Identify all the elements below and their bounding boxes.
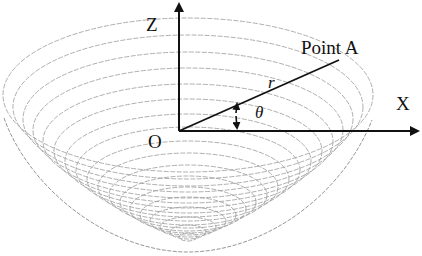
point-a-label: Point A	[301, 38, 359, 57]
z-axis-label: Z	[146, 15, 158, 34]
x-axis-label: X	[396, 94, 410, 113]
angle-arrow	[236, 104, 237, 128]
angle-label: θ	[255, 104, 263, 121]
radius-label: r	[268, 74, 275, 91]
origin-label: O	[148, 132, 162, 151]
bowl-outline	[4, 118, 372, 252]
